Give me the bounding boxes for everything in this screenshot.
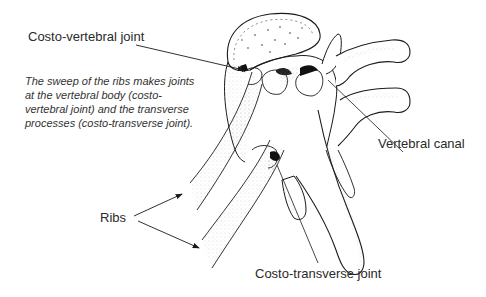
caption-line: The sweep of the ribs makes joints (25, 74, 215, 88)
label-vertebral-canal: Vertebral canal (378, 136, 465, 151)
transverse-process-upper (336, 40, 410, 86)
ribs-lower-arrow (138, 221, 199, 248)
caption-line: vertebral joint) and the transverse (25, 102, 215, 116)
label-costo-transverse-joint: Costo-transverse joint (255, 266, 381, 281)
vertebral-body (227, 13, 320, 70)
ribs-upper-arrow (134, 194, 182, 216)
diagram-canvas: Costo-vertebral joint The sweep of the r… (0, 0, 486, 297)
label-ribs: Ribs (100, 210, 126, 225)
caption-line: at the vertebral body (costo- (25, 88, 215, 102)
label-costo-vertebral-joint: Costo-vertebral joint (28, 29, 144, 44)
explanatory-caption: The sweep of the ribs makes joints at th… (25, 74, 215, 130)
caption-line: processes (costo-transverse joint). (25, 116, 215, 130)
